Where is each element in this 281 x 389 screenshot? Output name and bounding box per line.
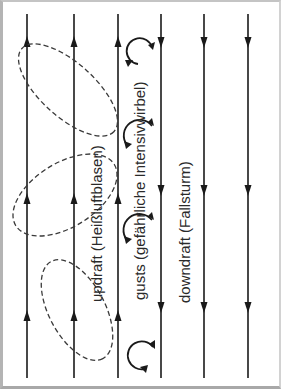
- updraft-line-2: [71, 14, 78, 378]
- downdraft-lines: [158, 14, 252, 378]
- arrow-up-icon: [115, 36, 122, 47]
- warm-air-bubbles: [0, 28, 132, 371]
- arrow-down-icon: [158, 37, 165, 48]
- arrow-down-icon: [158, 302, 165, 313]
- updraft-lines: [24, 14, 122, 378]
- arrow-down-icon: [201, 185, 208, 196]
- downdraft-line-3: [245, 14, 252, 378]
- vortex-icon: [125, 38, 155, 67]
- arrow-up-icon: [115, 193, 122, 204]
- arrow-up-icon: [71, 193, 78, 204]
- updraft-line-1: [24, 14, 31, 378]
- arrow-up-icon: [24, 193, 31, 204]
- updraft-line-3: [115, 14, 122, 378]
- downdraft-line-2: [201, 14, 208, 378]
- arrow-up-icon: [71, 310, 78, 321]
- arrow-down-icon: [158, 185, 165, 196]
- updraft-label: updraft (Heißluftblasen): [88, 145, 105, 302]
- vortex-icon: [128, 340, 155, 373]
- airflow-diagram: updraft (Heißluftblasen) gusts (gefährli…: [0, 0, 281, 389]
- downdraft-line-1: [158, 14, 165, 378]
- arrow-up-icon: [24, 36, 31, 47]
- arrow-up-icon: [24, 310, 31, 321]
- lower-bubble: [26, 248, 127, 371]
- arrow-down-icon: [245, 302, 252, 313]
- arrow-down-icon: [245, 37, 252, 48]
- arrow-down-icon: [245, 185, 252, 196]
- downdraft-label: downdraft (Fallsturm): [176, 161, 193, 303]
- middle-bubble: [0, 137, 131, 253]
- arrow-up-icon: [115, 310, 122, 321]
- arrow-down-icon: [201, 37, 208, 48]
- arrow-down-icon: [201, 302, 208, 313]
- arrow-up-icon: [71, 36, 78, 47]
- upper-bubble: [4, 28, 132, 151]
- gusts-label: gusts (gefährliche Intensivwirbel): [131, 82, 148, 300]
